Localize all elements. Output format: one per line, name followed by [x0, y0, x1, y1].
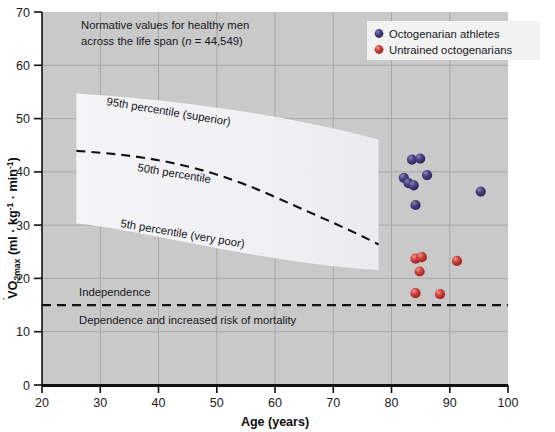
x-axis-tick-labels: 20 30 40 50 60 70 80 90 100	[35, 396, 518, 410]
x-tick-label: 50	[210, 396, 224, 410]
x-tick-label: 40	[152, 396, 166, 410]
data-point	[415, 154, 425, 164]
annotation-line-2: across the life span (n = 44,549)	[81, 35, 243, 47]
label-independence: Independence	[79, 286, 151, 298]
x-tick-label: 20	[35, 396, 49, 410]
x-tick-label: 80	[385, 396, 399, 410]
annotation-line-1: Normative values for healthy men	[81, 19, 249, 31]
y-title-main: VO	[6, 280, 20, 298]
data-point	[422, 170, 432, 180]
x-tick-label: 70	[326, 396, 340, 410]
y-title-units-open: (ml · kg	[6, 210, 20, 258]
data-point	[409, 180, 419, 190]
legend: Octogenarian athletes Untrained octogena…	[367, 21, 540, 60]
x-axis-title: Age (years)	[241, 415, 309, 429]
y-axis-ticks	[34, 12, 42, 385]
x-tick-label: 100	[498, 396, 519, 410]
y-tick-label: 0	[23, 379, 30, 393]
label-dependence: Dependence and increased risk of mortali…	[79, 314, 297, 326]
y-title-close: )	[6, 157, 20, 161]
data-point	[417, 252, 427, 262]
y-title-sub: 2max	[12, 258, 22, 280]
data-point	[435, 289, 445, 299]
legend-marker-untrained	[375, 45, 384, 54]
x-tick-label: 90	[443, 396, 457, 410]
legend-label-athletes: Octogenarian athletes	[389, 28, 500, 40]
data-point	[452, 256, 462, 266]
y-tick-label: 10	[16, 325, 30, 339]
x-tick-label: 60	[268, 396, 282, 410]
y-title-mid: · min	[6, 169, 20, 203]
annotation-line2-pre: across the life span (	[81, 35, 185, 47]
data-point	[410, 200, 420, 210]
data-point	[476, 187, 486, 197]
data-point	[415, 266, 425, 276]
data-point	[410, 288, 420, 298]
vo2max-age-scatter-figure: 95th percentile (superior) 50th percenti…	[0, 0, 555, 432]
svg-text:̇VO2max (ml · kg-1 · min-1): ̇VO2max (ml · kg-1 · min-1)	[3, 157, 22, 300]
legend-label-untrained: Untrained octogenarians	[389, 44, 512, 56]
y-tick-label: 50	[16, 112, 30, 126]
y-axis-title: ̇VO2max (ml · kg-1 · min-1)	[3, 157, 22, 300]
y-tick-label: 70	[16, 6, 30, 20]
legend-marker-athletes	[375, 29, 384, 38]
chart-svg: 95th percentile (superior) 50th percenti…	[0, 0, 555, 432]
y-tick-label: 60	[16, 59, 30, 73]
x-tick-label: 30	[93, 396, 107, 410]
annotation-line2-post: = 44,549)	[192, 35, 243, 47]
